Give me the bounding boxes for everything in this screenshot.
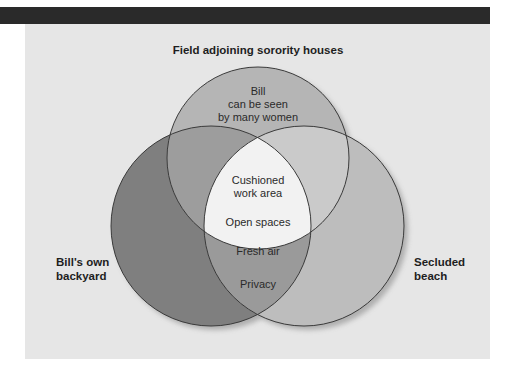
region-top-only-line1: Bill bbox=[198, 85, 318, 98]
set-right-label-line2: beach bbox=[414, 270, 465, 284]
set-right-label-line1: Secluded bbox=[414, 256, 465, 270]
region-center-item3: Fresh air bbox=[208, 245, 308, 258]
region-top-only-line3: by many women bbox=[198, 111, 318, 124]
set-right-label: Secluded beach bbox=[414, 256, 465, 284]
region-center-item1-line1: Cushioned bbox=[208, 174, 308, 187]
region-center-item1-line2: work area bbox=[208, 187, 308, 200]
region-top-only-text: Bill can be seen by many women bbox=[198, 85, 318, 125]
diagram-title: Field adjoining sorority houses bbox=[150, 44, 366, 58]
region-center-item2: Open spaces bbox=[208, 216, 308, 229]
region-left-right-text: Privacy bbox=[218, 278, 298, 291]
set-left-label-line1: Bill's own bbox=[56, 256, 109, 270]
set-left-label: Bill's own backyard bbox=[56, 256, 109, 284]
set-left-label-line2: backyard bbox=[56, 270, 109, 284]
region-center-item1: Cushioned work area bbox=[208, 174, 308, 200]
region-top-only-line2: can be seen bbox=[198, 98, 318, 111]
